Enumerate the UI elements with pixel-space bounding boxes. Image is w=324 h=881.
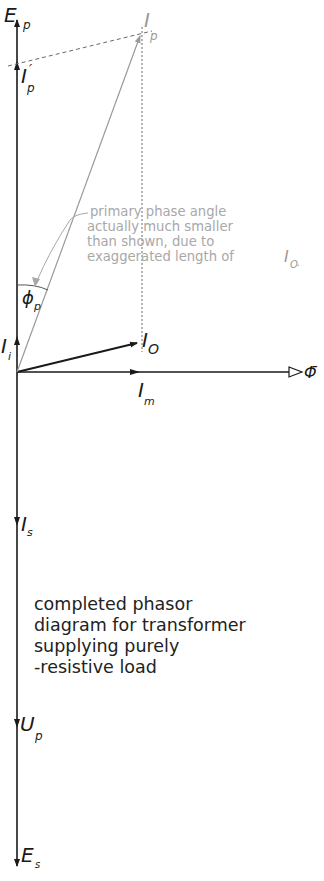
label-i-m: I m — [138, 378, 155, 408]
svg-text:primary phase angle: primary phase angle — [90, 204, 226, 219]
svg-text:diagram for transformer: diagram for transformer — [34, 615, 247, 635]
svg-text:p: p — [149, 29, 158, 43]
phasor-diagram: E p I ′ p I p ϕ p I i I O I m Φ̄ I s U p… — [0, 0, 324, 881]
svg-text:m: m — [144, 395, 155, 408]
label-i-p-prime: I ′ p — [21, 61, 35, 95]
svg-text:Φ̄: Φ̄ — [304, 363, 318, 382]
diagram-caption: completed phasor diagram for transformer… — [34, 594, 247, 677]
svg-text:s: s — [35, 859, 40, 870]
phasor-i-p-prime-arrowhead — [14, 61, 20, 70]
label-i-i: I i — [1, 334, 11, 363]
label-u-p: U p — [20, 712, 43, 743]
phasor-i-i-arrowhead — [14, 336, 20, 345]
svg-text:p: p — [22, 18, 31, 32]
svg-text:O: O — [148, 341, 159, 357]
svg-text:ϕ: ϕ — [22, 287, 34, 308]
svg-text:exaggerated length of: exaggerated length of — [87, 249, 234, 264]
flux-arrowhead-icon — [289, 367, 302, 377]
label-e-s: E s — [21, 843, 40, 870]
svg-text:p: p — [26, 81, 35, 95]
svg-text:′: ′ — [29, 61, 33, 77]
svg-text:than shown, due to: than shown, due to — [87, 234, 214, 249]
label-i-p: I p — [144, 8, 158, 43]
svg-text:completed phasor: completed phasor — [34, 594, 193, 614]
svg-text:actually much smaller: actually much smaller — [87, 219, 234, 234]
annotation-text: primary phase angle actually much smalle… — [87, 204, 300, 270]
svg-text:i: i — [8, 350, 11, 363]
label-phi-p: ϕ p — [22, 287, 41, 313]
svg-text:p: p — [33, 300, 41, 313]
svg-text:I: I — [1, 334, 7, 358]
label-i-o: I O — [142, 328, 159, 357]
phasor-i-o — [17, 343, 137, 372]
svg-text:E: E — [4, 3, 17, 27]
svg-text:I: I — [284, 247, 289, 266]
phasor-i-s-arrowhead — [14, 517, 20, 526]
svg-text:-resistive load: -resistive load — [34, 657, 157, 677]
svg-text:supplying purely: supplying purely — [34, 636, 179, 656]
svg-text:s: s — [27, 526, 33, 539]
phasor-i-m-arrowhead — [130, 369, 140, 375]
svg-text:E: E — [21, 843, 34, 867]
label-flux: Φ̄ — [304, 363, 318, 382]
svg-text:.: . — [297, 257, 300, 268]
svg-text:U: U — [20, 712, 35, 736]
svg-text:p: p — [34, 729, 43, 743]
label-i-s: I s — [21, 512, 33, 539]
